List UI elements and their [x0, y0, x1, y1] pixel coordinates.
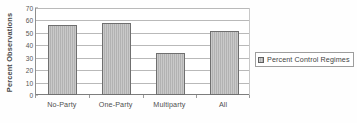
bars-group	[36, 8, 249, 95]
x-axis-label-no-party: No-Party	[47, 100, 76, 109]
x-axis-label-all: All	[219, 100, 227, 109]
x-axis-tick-mark	[143, 95, 144, 98]
y-axis-title-text: Percent Observations	[6, 13, 15, 92]
y-axis-tick-40: 40	[26, 42, 33, 49]
chart-legend: Percent Control Regimes	[255, 52, 354, 67]
x-axis-tick-marks	[35, 95, 250, 99]
y-axis-tick-50: 50	[26, 29, 33, 36]
x-axis-tick-mark	[89, 95, 90, 98]
bar-chart-figure: Percent Observations 706050403020100 No-…	[0, 0, 357, 123]
bar-multiparty	[156, 53, 185, 95]
bar-one-party	[102, 23, 131, 95]
x-axis-label-multiparty: Multiparty	[153, 100, 185, 109]
y-axis-tick-30: 30	[26, 54, 33, 61]
plot-area	[35, 8, 250, 95]
y-axis-tick-0: 0	[29, 92, 33, 99]
x-axis-label-one-party: One-Party	[99, 100, 133, 109]
y-axis-title: Percent Observations	[0, 0, 20, 105]
y-axis-tick-70: 70	[26, 5, 33, 12]
bar-all	[210, 31, 239, 95]
legend-swatch-icon	[258, 57, 264, 63]
x-axis-tick-labels: No-PartyOne-PartyMultipartyAll	[35, 100, 250, 114]
x-axis-tick-mark	[196, 95, 197, 98]
x-axis-tick-mark	[35, 95, 36, 98]
y-axis-tick-60: 60	[26, 17, 33, 24]
y-axis-tick-labels: 706050403020100	[18, 8, 35, 95]
legend-entry-label: Percent Control Regimes	[267, 55, 350, 64]
bar-no-party	[48, 25, 77, 95]
y-axis-tick-20: 20	[26, 67, 33, 74]
y-axis-tick-10: 10	[26, 79, 33, 86]
x-axis-tick-mark	[249, 95, 250, 98]
